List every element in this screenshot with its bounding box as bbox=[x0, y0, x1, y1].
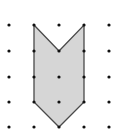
grid-dot bbox=[32, 75, 35, 78]
grid-dot bbox=[32, 100, 35, 103]
grid-dot bbox=[57, 125, 60, 128]
grid-dot bbox=[7, 23, 10, 26]
grid-dot bbox=[57, 75, 60, 78]
grid-dot bbox=[7, 125, 10, 128]
grid-dot bbox=[32, 23, 35, 26]
grid-dot bbox=[82, 75, 85, 78]
dot-grid-diagram bbox=[0, 0, 122, 129]
grid-dot bbox=[7, 49, 10, 52]
grid-dot bbox=[57, 49, 60, 52]
grid-dot bbox=[82, 125, 85, 128]
grid-dot bbox=[107, 100, 110, 103]
grid-dot bbox=[57, 23, 60, 26]
grid-dot bbox=[82, 49, 85, 52]
grid-dot bbox=[107, 49, 110, 52]
grid-dot bbox=[82, 23, 85, 26]
grid-dot bbox=[82, 100, 85, 103]
grid-dot bbox=[7, 100, 10, 103]
dot-grid-svg bbox=[0, 0, 122, 129]
grid-dot bbox=[7, 75, 10, 78]
grid-dot bbox=[107, 125, 110, 128]
grid-dot bbox=[32, 49, 35, 52]
grid-dot bbox=[107, 23, 110, 26]
grid-dot bbox=[107, 75, 110, 78]
grid-dot bbox=[57, 100, 60, 103]
grid-dot bbox=[32, 125, 35, 128]
